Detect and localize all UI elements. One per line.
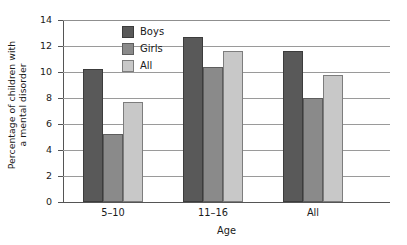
y-axis-tick-label: 10 (26, 67, 52, 77)
legend-label-boys: Boys (140, 27, 164, 37)
legend-swatch-boys-icon (122, 26, 134, 38)
bar-all-1 (223, 51, 243, 202)
y-axis-tick-label-wrap: 2 (22, 171, 52, 181)
y-axis-tick-label-wrap: 8 (22, 93, 52, 103)
legend-item-all: All (122, 58, 164, 74)
plot-area (63, 20, 390, 202)
gridline (63, 20, 390, 21)
y-axis-tick-label-wrap: 14 (22, 15, 52, 25)
bar-all-0 (123, 102, 143, 202)
bar-boys-0 (83, 69, 103, 202)
y-axis-tick-label-wrap: 4 (22, 145, 52, 155)
y-axis-tick-label-wrap: 0 (22, 197, 52, 207)
gridline (63, 46, 390, 47)
bar-girls-1 (203, 67, 223, 202)
x-axis-tick-label: All (273, 208, 353, 218)
y-axis-tick-label: 12 (26, 41, 52, 51)
legend-item-girls: Girls (122, 41, 164, 57)
legend-swatch-all-icon (122, 60, 134, 72)
y-axis-tick-label-wrap: 12 (22, 41, 52, 51)
bar-boys-1 (183, 37, 203, 202)
legend-label-girls: Girls (140, 44, 163, 54)
x-axis-title: Age (63, 226, 390, 236)
y-axis-tick-label: 8 (26, 93, 52, 103)
legend-label-all: All (140, 61, 152, 71)
y-axis-tick-label: 4 (26, 145, 52, 155)
legend-swatch-girls-icon (122, 43, 134, 55)
y-axis-tick-label-wrap: 10 (22, 67, 52, 77)
bar-boys-2 (283, 51, 303, 202)
y-axis-tick-label-wrap: 6 (22, 119, 52, 129)
bar-girls-2 (303, 98, 323, 202)
y-axis-tick-label: 6 (26, 119, 52, 129)
chart-legend: Boys Girls All (122, 24, 164, 75)
y-axis-tick-label: 14 (26, 15, 52, 25)
legend-item-boys: Boys (122, 24, 164, 40)
x-axis-tick-label: 5–10 (73, 208, 153, 218)
y-axis-title-line-1: Percentage of children with (6, 41, 17, 170)
bar-all-2 (323, 75, 343, 202)
y-axis-tick-label: 2 (26, 171, 52, 181)
y-axis-tick-label: 0 (26, 197, 52, 207)
bar-girls-0 (103, 134, 123, 202)
bar-chart: Percentage of children with a mental dis… (0, 0, 407, 245)
x-axis-tick-label: 11–16 (173, 208, 253, 218)
